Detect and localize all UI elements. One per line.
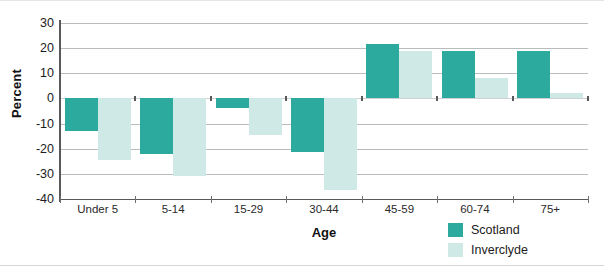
zero-line-tick-mark [436, 96, 438, 101]
bar-inverclyde-75+[interactable] [550, 93, 583, 98]
y-axis-tick-label: 30 [18, 16, 54, 30]
x-axis-tick-mark [437, 196, 438, 203]
bar-scotland-30-44[interactable] [291, 98, 324, 152]
legend-item-inverclyde[interactable]: Inverclyde [448, 241, 528, 259]
bar-inverclyde-under-5[interactable] [98, 98, 131, 160]
legend-label-inverclyde: Inverclyde [471, 243, 528, 257]
x-axis-tick-label: 45-59 [385, 203, 414, 215]
legend-label-scotland: Scotland [471, 223, 520, 237]
x-axis-tick-label: 15-29 [234, 203, 263, 215]
bar-chart: Percent Under 55-1415-2930-4445-5960-747… [0, 0, 604, 266]
gridline [60, 48, 588, 49]
y-axis-tick-label: 0 [18, 91, 54, 105]
zero-line-tick-mark [587, 96, 589, 101]
gridline [60, 23, 588, 24]
x-axis-tick-mark [60, 196, 61, 203]
x-axis-tick-label: Under 5 [77, 203, 118, 215]
y-axis-tick-label: -20 [18, 142, 54, 156]
x-axis-tick-label: 75+ [541, 203, 561, 215]
bar-scotland-60-74[interactable] [442, 51, 475, 99]
legend-swatch-inverclyde [448, 243, 463, 257]
top-divider [0, 0, 604, 1]
bar-inverclyde-5-14[interactable] [173, 98, 206, 176]
y-axis-tick-mark [59, 71, 61, 76]
bar-scotland-5-14[interactable] [140, 98, 173, 153]
x-axis-tick-mark [588, 196, 589, 203]
x-axis-tick-mark [286, 196, 287, 203]
bar-scotland-under-5[interactable] [65, 98, 98, 131]
x-axis-line [60, 199, 588, 200]
x-axis-tick-mark [513, 196, 514, 203]
x-axis-tick-label: 30-44 [309, 203, 338, 215]
zero-line-tick-mark [210, 96, 212, 101]
y-axis-tick-label: 20 [18, 41, 54, 55]
zero-line-tick-mark [512, 96, 514, 101]
x-axis-tick-mark [211, 196, 212, 203]
y-axis-tick-label: -30 [18, 167, 54, 181]
y-axis-tick-mark [59, 147, 61, 152]
zero-line-tick-mark [134, 96, 136, 101]
gridline [60, 73, 588, 74]
y-axis-tick-label: -40 [18, 192, 54, 206]
zero-line-tick-mark [285, 96, 287, 101]
bar-inverclyde-15-29[interactable] [249, 98, 282, 134]
zero-line-tick-mark [361, 96, 363, 101]
x-axis-tick-label: 5-14 [162, 203, 185, 215]
bar-scotland-45-59[interactable] [366, 44, 399, 98]
y-axis-tick-label: 10 [18, 66, 54, 80]
x-axis-tick-label: 60-74 [460, 203, 489, 215]
y-axis-tick-mark [59, 172, 61, 177]
x-axis-tick-mark [362, 196, 363, 203]
plot-area [60, 23, 588, 199]
y-axis-tick-label: -10 [18, 117, 54, 131]
bar-scotland-15-29[interactable] [216, 98, 249, 108]
bar-scotland-75+[interactable] [517, 51, 550, 99]
y-axis-tick-mark [59, 21, 61, 26]
x-axis-tick-mark [135, 196, 136, 203]
legend: Scotland Inverclyde [448, 221, 528, 261]
y-axis-tick-mark [59, 122, 61, 127]
legend-item-scotland[interactable]: Scotland [448, 221, 528, 239]
y-axis-tick-mark [59, 46, 61, 51]
bar-inverclyde-30-44[interactable] [324, 98, 357, 190]
bar-inverclyde-60-74[interactable] [475, 78, 508, 98]
legend-swatch-scotland [448, 223, 463, 237]
bar-inverclyde-45-59[interactable] [399, 51, 432, 99]
x-axis-label: Age [312, 225, 337, 240]
zero-line-tick-mark [59, 96, 61, 101]
